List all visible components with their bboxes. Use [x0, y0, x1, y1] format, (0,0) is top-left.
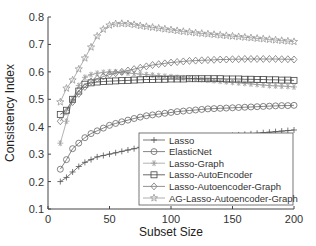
y-axis-label: Consistency Index: [3, 64, 17, 162]
plus-marker-icon: [100, 153, 106, 159]
y-tick-label: 0.7: [29, 38, 44, 50]
x-tick-label: 200: [285, 213, 303, 225]
legend-label: Lasso: [169, 135, 194, 146]
x-tick-label: 100: [162, 213, 180, 225]
asterisk-marker-icon: [205, 77, 211, 83]
star-marker-icon: [112, 20, 119, 27]
legend-label: Lasso-AutoEncoder: [169, 169, 252, 180]
asterisk-marker-icon: [242, 80, 248, 86]
asterisk-marker-icon: [156, 73, 162, 79]
y-tick-label: 0.5: [29, 93, 44, 105]
plus-marker-icon: [107, 151, 113, 157]
diamond-marker-icon: [57, 118, 63, 125]
y-tick-label: 0.4: [29, 121, 44, 133]
asterisk-marker-icon: [137, 71, 143, 77]
x-axis-label: Subset Size: [139, 225, 203, 239]
asterisk-marker-icon: [88, 72, 94, 78]
plus-marker-icon: [57, 179, 63, 185]
line-chart: 0.10.20.30.40.50.60.70.8050100150200 Las…: [0, 0, 316, 246]
asterisk-marker-icon: [57, 140, 63, 146]
asterisk-marker-icon: [266, 83, 272, 89]
legend-label: ElasticNet: [169, 146, 212, 157]
y-tick-label: 0.3: [29, 148, 44, 160]
plus-marker-icon: [291, 127, 297, 133]
asterisk-marker-icon: [273, 83, 279, 89]
legend-label: Lasso-Graph: [169, 158, 224, 169]
y-tick-label: 0.8: [29, 11, 44, 23]
x-tick-label: 50: [103, 213, 115, 225]
plus-marker-icon: [113, 150, 119, 156]
y-tick-label: 0.6: [29, 66, 44, 78]
plus-marker-icon: [119, 148, 125, 154]
circle-marker-icon: [57, 166, 63, 172]
plus-marker-icon: [94, 154, 100, 160]
asterisk-marker-icon: [150, 72, 156, 78]
x-tick-label: 150: [223, 213, 241, 225]
plus-marker-icon: [125, 147, 131, 153]
series-ag-lasso-autoencoder-graph: [57, 20, 298, 105]
asterisk-marker-icon: [285, 83, 291, 89]
plus-marker-icon: [88, 157, 94, 163]
plus-marker-icon: [82, 159, 88, 165]
asterisk-marker-icon: [279, 83, 285, 89]
asterisk-marker-icon: [174, 74, 180, 80]
asterisk-marker-icon: [131, 71, 137, 77]
y-tick-label: 0.1: [29, 203, 44, 215]
legend-label: AG-Lasso-Autoencoder-Graph: [169, 193, 298, 204]
legend: LassoElasticNetLasso-GraphLasso-AutoEnco…: [139, 133, 298, 205]
y-tick-label: 0.2: [29, 176, 44, 188]
asterisk-marker-icon: [63, 118, 69, 124]
asterisk-marker-icon: [291, 84, 297, 90]
asterisk-marker-icon: [82, 74, 88, 80]
x-tick-label: 0: [45, 213, 51, 225]
asterisk-marker-icon: [236, 80, 242, 86]
legend-label: Lasso-Autoencoder-Graph: [169, 181, 281, 192]
asterisk-marker-icon: [248, 81, 254, 87]
plus-marker-icon: [131, 146, 137, 152]
